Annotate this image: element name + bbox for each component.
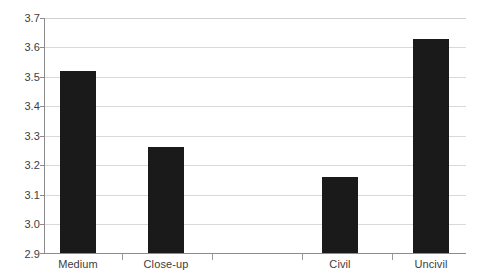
x-axis-label-uncivil: Uncivil: [391, 259, 471, 270]
x-axis-label-close-up: Close-up: [126, 259, 206, 270]
y-axis-tick-label: 3.6: [4, 42, 40, 53]
gridline: [44, 106, 466, 107]
y-axis-line: [44, 18, 45, 254]
x-axis-tick-mark: [212, 254, 213, 260]
bar-close-up: [148, 147, 184, 253]
bar-medium: [60, 71, 96, 253]
gridline: [44, 47, 466, 48]
y-axis-tick-label: 3.1: [4, 190, 40, 201]
gridline: [44, 136, 466, 137]
gridline: [44, 224, 466, 225]
y-axis-tick-label: 3.3: [4, 131, 40, 142]
x-axis-tick-mark: [122, 254, 123, 260]
y-axis-tick-label: 3.5: [4, 72, 40, 83]
y-axis-tick-labels: 3.7 3.6 3.5 3.4 3.3 3.2 3.1 3.0 2.9: [0, 0, 40, 279]
gridline: [44, 77, 466, 78]
plot-area: [44, 18, 466, 253]
gridline: [44, 165, 466, 166]
bar-uncivil: [413, 39, 449, 253]
y-axis-tick-label: 2.9: [4, 249, 40, 260]
gridline: [44, 18, 466, 19]
y-axis-tick-label: 3.0: [4, 219, 40, 230]
gridline: [44, 195, 466, 196]
x-axis-line: [44, 253, 466, 254]
y-axis-tick-label: 3.4: [4, 101, 40, 112]
y-axis-tick-label: 3.7: [4, 13, 40, 24]
bar-civil: [322, 177, 358, 253]
y-axis-tick-label: 3.2: [4, 160, 40, 171]
x-axis-label-civil: Civil: [300, 259, 380, 270]
x-axis-label-medium: Medium: [38, 259, 118, 270]
bar-chart: 3.7 3.6 3.5 3.4 3.3 3.2 3.1 3.0 2.9: [0, 0, 480, 279]
